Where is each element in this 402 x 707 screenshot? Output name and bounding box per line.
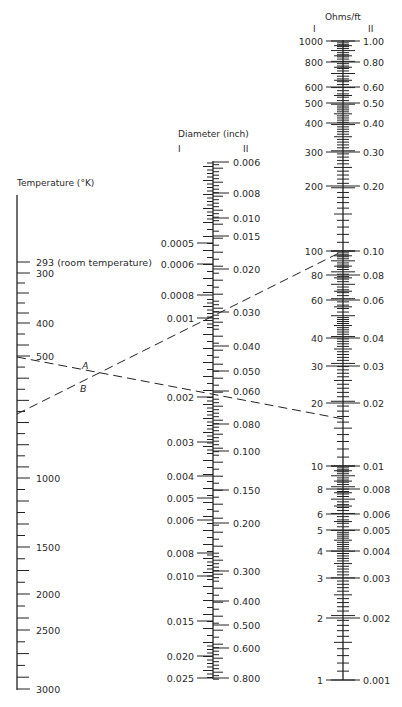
diameter-col-I-label: 0.005 bbox=[167, 493, 194, 504]
resistance-col-I-label: 200 bbox=[305, 181, 323, 192]
diameter-col-II-label: 0.050 bbox=[233, 366, 260, 377]
diameter-scale: Diameter (inch) I II 0.00050.00060.00080… bbox=[161, 129, 260, 684]
resistance-col-II-label: 0.03 bbox=[363, 361, 384, 372]
diameter-col-II-label: 0.300 bbox=[233, 566, 260, 577]
diameter-col-II-label: 0.200 bbox=[233, 518, 260, 529]
diameter-col-II-label: 0.500 bbox=[233, 620, 260, 631]
resistance-col-I-label: 8 bbox=[317, 484, 323, 495]
diameter-col-I-label: 0.002 bbox=[167, 392, 194, 403]
diameter-col-II-label: 0.800 bbox=[233, 673, 260, 684]
diameter-col-I-label: 0.004 bbox=[167, 471, 194, 482]
resistance-col-I-label: 1 bbox=[317, 675, 323, 686]
resistance-col-II-label: 0.003 bbox=[363, 573, 390, 584]
resistance-col-I-label: 40 bbox=[311, 333, 323, 344]
example-line-a bbox=[17, 357, 343, 419]
diameter-col-II-label: 0.030 bbox=[233, 307, 260, 318]
resistance-col-I-label: 60 bbox=[311, 295, 323, 306]
resistance-ticks bbox=[326, 41, 360, 680]
diameter-col-II-header: II bbox=[243, 144, 248, 154]
temperature-label: 1000 bbox=[36, 473, 60, 484]
resistance-col-II-label: 0.50 bbox=[363, 98, 384, 109]
resistance-col-I-label: 100 bbox=[305, 246, 323, 257]
diameter-col-II-label: 0.008 bbox=[233, 188, 260, 199]
temperature-labels: 293 (room temperature)300400500100015002… bbox=[36, 257, 152, 695]
resistance-col-I-label: 30 bbox=[311, 361, 323, 372]
diameter-col-I-label: 0.008 bbox=[167, 548, 194, 559]
diameter-col-I-label: 0.0008 bbox=[161, 290, 194, 301]
diameter-col-II-label: 0.400 bbox=[233, 596, 260, 607]
diameter-col-I-label: 0.006 bbox=[167, 515, 194, 526]
diameter-col-II-label: 0.150 bbox=[233, 485, 260, 496]
diameter-col-II-label: 0.080 bbox=[233, 419, 260, 430]
example-line-b bbox=[17, 251, 343, 414]
resistance-col-I-label: 2 bbox=[317, 613, 323, 624]
resistance-col-I-label: 800 bbox=[305, 57, 323, 68]
diameter-col-I-header: I bbox=[178, 144, 181, 154]
diameter-col-II-label: 0.600 bbox=[233, 643, 260, 654]
diameter-col-I-label: 0.015 bbox=[167, 616, 194, 627]
diameter-col-I-label: 0.0006 bbox=[161, 259, 194, 270]
diameter-col-II-label: 0.100 bbox=[233, 446, 260, 457]
temperature-label: 500 bbox=[36, 351, 54, 362]
resistance-col-I-label: 20 bbox=[311, 398, 323, 409]
diameter-col-II-label: 0.006 bbox=[233, 157, 260, 168]
temperature-label: 300 bbox=[36, 268, 54, 279]
resistance-col-II-label: 0.04 bbox=[363, 333, 384, 344]
resistance-col-I-label: 3 bbox=[317, 573, 323, 584]
example-line-label-b: B bbox=[80, 383, 87, 394]
diameter-col-I-label: 0.0005 bbox=[161, 238, 194, 249]
diameter-col-I-label: 0.001 bbox=[167, 313, 194, 324]
temperature-label: 2500 bbox=[36, 625, 60, 636]
temperature-label: 3000 bbox=[36, 684, 60, 695]
resistance-col-I-label: 4 bbox=[317, 546, 323, 557]
temperature-label: 1500 bbox=[36, 542, 60, 553]
temperature-label: 2000 bbox=[36, 589, 60, 600]
diameter-col-II-label: 0.040 bbox=[233, 341, 260, 352]
resistance-col-II-label: 0.02 bbox=[363, 398, 384, 409]
resistance-col-II-label: 0.30 bbox=[363, 147, 384, 158]
temperature-scale: Temperature (°K) 293 (room temperature)3… bbox=[16, 178, 152, 695]
resistance-col-II-header: II bbox=[368, 24, 373, 34]
diameter-col-II-label: 0.020 bbox=[233, 264, 260, 275]
nomogram: Temperature (°K) 293 (room temperature)3… bbox=[0, 0, 402, 707]
resistance-col-I-label: 10 bbox=[311, 461, 323, 472]
resistance-col-II-label: 0.20 bbox=[363, 181, 384, 192]
resistance-col-II-label: 0.10 bbox=[363, 246, 384, 257]
temperature-ticks bbox=[17, 262, 30, 689]
resistance-col-I-label: 300 bbox=[305, 147, 323, 158]
resistance-col-I-label: 600 bbox=[305, 82, 323, 93]
resistance-col-I-label: 500 bbox=[305, 98, 323, 109]
resistance-col-II-label: 0.001 bbox=[363, 675, 390, 686]
example-line-label-a: A bbox=[81, 360, 89, 371]
resistance-col-II-label: 0.004 bbox=[363, 546, 390, 557]
temperature-label: 293 (room temperature) bbox=[36, 257, 152, 268]
diameter-labels: 0.00050.00060.00080.0010.0020.0030.0040.… bbox=[161, 157, 260, 684]
resistance-col-II-label: 0.80 bbox=[363, 57, 384, 68]
resistance-col-II-label: 0.005 bbox=[363, 525, 390, 536]
resistance-col-I-label: 80 bbox=[311, 270, 323, 281]
diameter-col-I-label: 0.025 bbox=[167, 673, 194, 684]
temperature-title: Temperature (°K) bbox=[16, 178, 94, 188]
diameter-col-I-label: 0.020 bbox=[167, 651, 194, 662]
resistance-col-II-label: 0.008 bbox=[363, 484, 390, 495]
diameter-col-II-label: 0.015 bbox=[233, 231, 260, 242]
diameter-col-I-label: 0.010 bbox=[167, 571, 194, 582]
resistance-col-II-label: 1.00 bbox=[363, 36, 384, 47]
resistance-col-II-label: 0.60 bbox=[363, 82, 384, 93]
resistance-title: Ohms/ft bbox=[325, 12, 361, 22]
resistance-col-II-label: 0.002 bbox=[363, 613, 390, 624]
resistance-col-I-label: 6 bbox=[317, 509, 323, 520]
resistance-col-I-label: 5 bbox=[317, 525, 323, 536]
resistance-col-II-label: 0.40 bbox=[363, 118, 384, 129]
resistance-col-II-label: 0.01 bbox=[363, 461, 384, 472]
resistance-col-II-label: 0.06 bbox=[363, 295, 384, 306]
resistance-col-I-label: 400 bbox=[305, 118, 323, 129]
diameter-col-II-label: 0.010 bbox=[233, 213, 260, 224]
resistance-scale: Ohms/ft I II 100080060050040030020010080… bbox=[299, 12, 390, 686]
resistance-col-II-label: 0.006 bbox=[363, 509, 390, 520]
resistance-col-II-label: 0.08 bbox=[363, 270, 384, 281]
diameter-col-II-label: 0.060 bbox=[233, 386, 260, 397]
diameter-col-I-label: 0.003 bbox=[167, 437, 194, 448]
diameter-title: Diameter (inch) bbox=[178, 129, 249, 139]
resistance-col-I-label: 1000 bbox=[299, 36, 323, 47]
